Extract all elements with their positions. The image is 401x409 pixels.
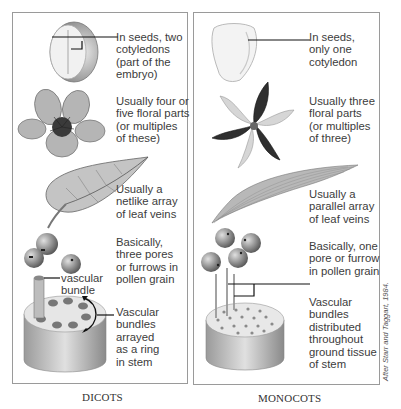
monocot-leaf-label: Usually a parallel array of leaf veins [309,188,374,225]
dicot-seed-label: In seeds, two cotyledons (part of the em… [116,31,183,81]
monocot-flower-illustration [208,80,304,172]
monocots-caption: MONOCOTS [258,392,321,404]
monocot-pollen-label: Basically, one pore or furrow in pollen … [309,240,379,277]
monocot-stem-illustration [202,284,312,380]
monocot-seed-illustration [210,22,310,84]
dicot-seed-illustration [40,20,120,85]
dicot-flower-label: Usually four or five floral parts (or mu… [116,95,189,145]
monocot-flower-label: Usually three floral parts (or multiples… [309,95,375,145]
dicot-vascular-bundle-callout: vascular bundle [61,272,103,297]
monocot-seed-label: In seeds, only one cotyledon [309,31,357,68]
monocot-pollen-illustration [198,224,264,274]
dicot-flower-illustration [18,87,104,159]
dicot-stem-label: Vascular bundles arrayed as a ring in st… [116,306,159,368]
dicot-pollen-label: Basically, three pores or furrows in pol… [116,236,178,286]
source-credit: After Starr and Taggart, 1984. [381,282,390,381]
monocot-stem-label: Vascular bundles distributed throughout … [309,296,377,370]
dicot-leaf-label: Usually a netlike array of leaf veins [116,183,178,220]
dicots-caption: DICOTS [82,391,123,403]
